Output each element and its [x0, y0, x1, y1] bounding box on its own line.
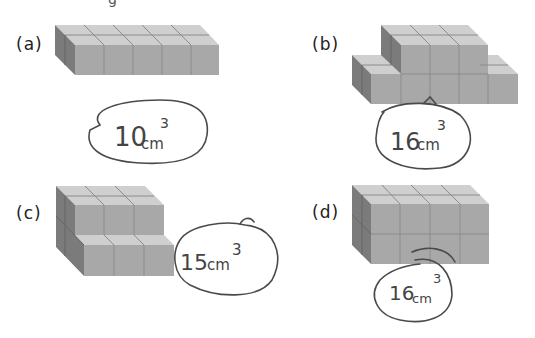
shape-d-cuboid: [352, 185, 489, 264]
answer-b-number: 16: [390, 128, 421, 156]
answer-b-circle: 16 cm 3: [376, 97, 470, 169]
answer-d-number: 16: [389, 281, 414, 305]
worksheet-figures: .top { fill: #cfcfcf; } .front { fill: #…: [0, 0, 535, 338]
answer-b-exponent: 3: [437, 117, 446, 133]
answer-d-exponent: 3: [433, 271, 441, 286]
answer-c-exponent: 3: [232, 241, 242, 259]
answer-c-circle: 15 cm 3: [175, 218, 278, 295]
answer-c-unit: cm: [207, 256, 230, 274]
answer-a-exponent: 3: [160, 115, 169, 131]
answer-c-number: 15: [180, 250, 208, 275]
answer-d-unit: cm: [412, 291, 432, 306]
shape-b-stepped: [352, 25, 518, 104]
shape-c-stairs: [56, 186, 174, 276]
answer-a-unit: cm: [141, 135, 164, 153]
answer-b-unit: cm: [417, 136, 440, 154]
answer-a-circle: 10 cm 3: [89, 100, 207, 163]
shape-a-cuboid: [55, 25, 219, 75]
